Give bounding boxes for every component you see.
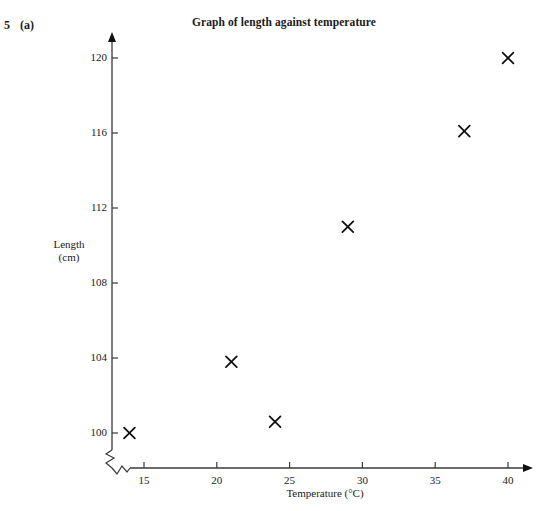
- data-point[interactable]: 21, 103.8: [226, 356, 237, 367]
- y-tick-label: 100: [91, 426, 108, 438]
- data-point[interactable]: 24, 100.6: [270, 416, 281, 427]
- y-tick-label: 120: [91, 51, 108, 63]
- x-tick-label: 25: [265, 474, 315, 486]
- data-point[interactable]: 29, 111: [342, 221, 353, 232]
- y-axis-label: Length(cm): [36, 238, 102, 264]
- y-axis-label-line2: (cm): [36, 251, 102, 264]
- y-tick-label: 108: [91, 276, 108, 288]
- ticks-layer: [112, 58, 508, 468]
- data-points-layer: 14, 10021, 103.824, 100.629, 11137, 116.…: [124, 53, 513, 439]
- y-tick-label: 116: [91, 126, 107, 138]
- data-point[interactable]: 40, 120: [503, 53, 514, 64]
- y-tick-label: 104: [91, 351, 108, 363]
- x-tick-label: 20: [192, 474, 242, 486]
- y-tick-label: 112: [91, 201, 107, 213]
- x-tick-label: 15: [119, 474, 169, 486]
- x-axis-label: Temperature (°C): [225, 487, 425, 500]
- data-point[interactable]: 37, 116.1: [459, 126, 470, 137]
- x-axis-arrow: [523, 464, 533, 472]
- data-point[interactable]: 14, 100: [124, 428, 135, 439]
- worksheet-page: 5 (a) Graph of length against temperatur…: [0, 0, 538, 511]
- x-tick-label: 30: [337, 474, 387, 486]
- x-tick-label: 35: [410, 474, 460, 486]
- x-axis-break-zigzag: [112, 466, 130, 474]
- y-axis-break-zigzag: [106, 450, 114, 468]
- y-axis-label-line1: Length: [36, 238, 102, 251]
- y-axis-arrow: [108, 32, 116, 42]
- axes-layer: [106, 32, 533, 474]
- x-tick-label: 40: [483, 474, 533, 486]
